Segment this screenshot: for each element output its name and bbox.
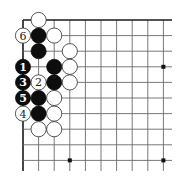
star-point-icon bbox=[161, 158, 165, 162]
white-stone bbox=[47, 122, 62, 137]
white-stone-icon bbox=[31, 12, 46, 27]
white-stone bbox=[47, 106, 62, 121]
white-stone-icon bbox=[47, 28, 62, 43]
white-stone bbox=[31, 12, 46, 27]
black-stone-move-5: 5 bbox=[15, 90, 30, 105]
black-stone bbox=[47, 75, 62, 90]
go-board-diagram: 613254 bbox=[0, 0, 180, 183]
move-number-label: 6 bbox=[20, 30, 27, 43]
move-number-label: 1 bbox=[19, 61, 27, 74]
white-stone-move-6: 6 bbox=[15, 28, 30, 43]
black-stone bbox=[31, 106, 46, 121]
white-stone bbox=[62, 59, 77, 74]
black-stone-icon bbox=[31, 106, 46, 121]
black-stone-icon bbox=[31, 28, 46, 43]
white-stone-icon bbox=[47, 90, 62, 105]
white-stone bbox=[62, 44, 77, 59]
black-stone-icon bbox=[47, 75, 62, 90]
white-stone bbox=[62, 75, 77, 90]
white-stone bbox=[31, 122, 46, 137]
white-stone bbox=[47, 28, 62, 43]
white-stone-icon bbox=[62, 44, 77, 59]
white-stone-move-2: 2 bbox=[31, 75, 46, 90]
star-point-icon bbox=[161, 65, 165, 69]
white-stone-icon bbox=[47, 106, 62, 121]
black-stone-icon bbox=[31, 90, 46, 105]
black-stone-move-1: 1 bbox=[15, 59, 30, 74]
white-stone-icon bbox=[62, 75, 77, 90]
black-stone bbox=[31, 44, 46, 59]
star-point-icon bbox=[68, 158, 72, 162]
black-stone bbox=[47, 59, 62, 74]
white-stone-move-4: 4 bbox=[15, 106, 30, 121]
stones-layer: 613254 bbox=[15, 12, 77, 136]
black-stone bbox=[31, 28, 46, 43]
black-stone-move-3: 3 bbox=[15, 75, 30, 90]
black-stone-icon bbox=[47, 59, 62, 74]
move-number-label: 5 bbox=[19, 92, 27, 105]
move-number-label: 4 bbox=[20, 108, 27, 121]
black-stone-icon bbox=[31, 44, 46, 59]
white-stone-icon bbox=[47, 122, 62, 137]
white-stone-icon bbox=[62, 59, 77, 74]
move-number-label: 3 bbox=[19, 76, 27, 89]
white-stone-icon bbox=[31, 122, 46, 137]
black-stone bbox=[31, 90, 46, 105]
white-stone bbox=[47, 90, 62, 105]
move-number-label: 2 bbox=[35, 76, 42, 89]
